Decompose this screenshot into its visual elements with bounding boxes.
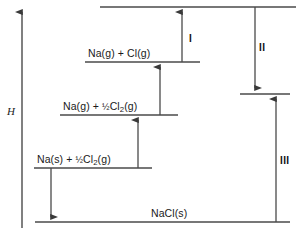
enthalpy-level-diagram: H Na(g) + Cl(g) Na(g) + ½Cl2(g) Na(s) + … xyxy=(0,0,296,234)
step-label-two: II xyxy=(259,42,265,53)
level-label-third-element: Cl xyxy=(83,153,93,165)
level-label-third-state: (g) xyxy=(98,153,111,165)
level-lines xyxy=(34,7,296,222)
diagram-canvas xyxy=(0,0,296,234)
level-label-third-fraction: ½ xyxy=(75,155,83,165)
level-label-na-g-cl-g: Na(g) + Cl(g) xyxy=(88,47,150,59)
level-label-nacl-s: NaCl(s) xyxy=(151,207,187,219)
level-label-second-state: (g) xyxy=(124,100,137,112)
step-label-one: I xyxy=(189,33,192,44)
level-label-na-s-half-cl2: Na(s) + ½Cl2(g) xyxy=(37,153,111,167)
level-label-second-element: Cl xyxy=(110,100,120,112)
enthalpy-axis-label: H xyxy=(7,105,15,117)
level-label-second-prefix: Na(g) + xyxy=(63,100,102,112)
level-label-nacl-s-text: NaCl(s) xyxy=(151,207,187,219)
level-label-na-g-half-cl2: Na(g) + ½Cl2(g) xyxy=(63,100,137,114)
level-label-na-g-cl-g-text: Na(g) + Cl(g) xyxy=(88,47,150,59)
level-label-second-fraction: ½ xyxy=(102,102,110,112)
step-label-three: III xyxy=(280,155,290,166)
level-label-third-prefix: Na(s) + xyxy=(37,153,75,165)
